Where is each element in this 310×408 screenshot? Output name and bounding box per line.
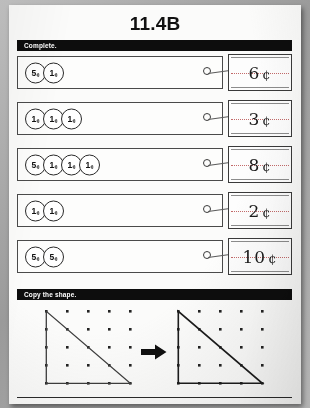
cent-symbol-icon: ¢: [262, 66, 271, 81]
answer-value: 3: [248, 108, 260, 128]
ruled-writing-field: 6¢: [231, 57, 289, 88]
coin-value: 1: [49, 160, 54, 170]
coin-value: 5: [31, 68, 36, 78]
cent-symbol-icon: ¢: [54, 71, 57, 77]
problem-row: 5¢ 5¢ 10¢: [17, 238, 292, 276]
coin-strip: 5¢ 1¢: [25, 62, 61, 83]
cent-symbol-icon: ¢: [72, 163, 75, 169]
answer-box[interactable]: 6¢: [228, 54, 292, 91]
pen-mark-icon: [203, 251, 211, 259]
coin-value: 1: [67, 160, 72, 170]
problem-row: 1¢ 1¢ 1¢ 3¢: [17, 100, 292, 138]
cent-symbol-icon: ¢: [54, 255, 57, 261]
pen-mark-icon: [203, 159, 211, 167]
coin: 1¢: [43, 62, 64, 83]
answer-box[interactable]: 3¢: [228, 100, 292, 137]
coin-display-box: 5¢ 1¢: [17, 56, 223, 89]
coin-value: 5: [31, 252, 36, 262]
cent-symbol-icon: ¢: [36, 71, 39, 77]
triangle-shape: [46, 311, 130, 383]
coin: 1¢: [79, 154, 100, 175]
answer-box[interactable]: 2¢: [228, 192, 292, 229]
pen-mark-icon: [203, 205, 211, 213]
coin-value: 1: [67, 114, 72, 124]
cent-symbol-icon: ¢: [262, 204, 271, 219]
dot-grid-answer[interactable]: [175, 308, 269, 392]
coin-value: 1: [49, 114, 54, 124]
pen-mark-icon: [203, 67, 211, 75]
problem-row: 1¢ 1¢ 2¢: [17, 192, 292, 230]
cent-symbol-icon: ¢: [262, 158, 271, 173]
answer-value: 8: [248, 154, 260, 174]
coin-display-box: 1¢ 1¢ 1¢: [17, 102, 223, 135]
answer-value: 6: [248, 62, 260, 82]
coin-value: 5: [31, 160, 36, 170]
coin: 1¢: [61, 108, 82, 129]
coin-strip: 1¢ 1¢: [25, 200, 61, 221]
page-title: 11.4B: [9, 13, 301, 35]
coin-strip: 1¢ 1¢ 1¢: [25, 108, 79, 129]
cent-symbol-icon: ¢: [54, 117, 57, 123]
cent-symbol-icon: ¢: [72, 117, 75, 123]
coin-value: 1: [49, 206, 54, 216]
coin-value: 5: [49, 252, 54, 262]
arrow-right-icon: [141, 344, 167, 360]
answer-text: 3¢: [231, 108, 289, 128]
coin-value: 1: [31, 114, 36, 124]
answer-value: 2: [248, 200, 260, 220]
copy-shape-area: [17, 304, 292, 400]
cent-symbol-icon: ¢: [36, 117, 39, 123]
answer-box[interactable]: 8¢: [228, 146, 292, 183]
dot-grid-source: [43, 308, 137, 392]
answer-text: 6¢: [231, 62, 289, 82]
cent-symbol-icon: ¢: [268, 250, 277, 265]
section-header-copy-shape: Copy the shape.: [17, 289, 292, 300]
cent-symbol-icon: ¢: [36, 163, 39, 169]
worksheet-page: 11.4B Complete. 5¢ 1¢ 6¢: [0, 0, 310, 408]
coin-value: 1: [31, 206, 36, 216]
coin-strip: 5¢ 5¢: [25, 246, 61, 267]
coin-display-box: 1¢ 1¢: [17, 194, 223, 227]
coin: 5¢: [43, 246, 64, 267]
paper-sheet: 11.4B Complete. 5¢ 1¢ 6¢: [9, 5, 301, 404]
answer-box[interactable]: 10¢: [228, 238, 292, 275]
bottom-rule: [17, 397, 292, 398]
coin-display-box: 5¢ 1¢ 1¢ 1¢: [17, 148, 223, 181]
answer-text: 2¢: [231, 200, 289, 220]
coin-value: 1: [49, 68, 54, 78]
cent-symbol-icon: ¢: [262, 112, 271, 127]
cent-symbol-icon: ¢: [36, 209, 39, 215]
section-header-complete: Complete.: [17, 40, 292, 51]
answer-value: 10: [243, 246, 267, 266]
ruled-writing-field: 8¢: [231, 149, 289, 180]
answer-text: 8¢: [231, 154, 289, 174]
problem-row: 5¢ 1¢ 1¢ 1¢ 8¢: [17, 146, 292, 184]
cent-symbol-icon: ¢: [54, 163, 57, 169]
cent-symbol-icon: ¢: [54, 209, 57, 215]
coin: 1¢: [43, 200, 64, 221]
ruled-writing-field: 2¢: [231, 195, 289, 226]
triangle-shape-drawn: [178, 311, 262, 383]
coin-display-box: 5¢ 5¢: [17, 240, 223, 273]
ruled-writing-field: 10¢: [231, 241, 289, 272]
answer-text: 10¢: [231, 246, 289, 266]
ruled-writing-field: 3¢: [231, 103, 289, 134]
coin-strip: 5¢ 1¢ 1¢ 1¢: [25, 154, 97, 175]
coin-value: 1: [85, 160, 90, 170]
problem-row: 5¢ 1¢ 6¢: [17, 54, 292, 92]
pen-mark-icon: [203, 113, 211, 121]
cent-symbol-icon: ¢: [36, 255, 39, 261]
cent-symbol-icon: ¢: [90, 163, 93, 169]
